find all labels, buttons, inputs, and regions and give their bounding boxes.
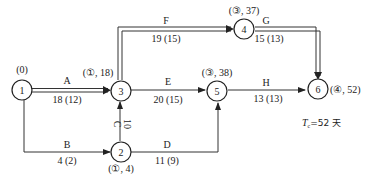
svg-text:Tc=52 天: Tc=52 天: [302, 117, 341, 129]
edge-g: G 15 (13): [254, 15, 322, 80]
node-5-label: 5: [215, 86, 220, 97]
node-3: 3 (①, 18): [83, 67, 131, 101]
total-duration: Tc=52 天: [302, 117, 341, 129]
edge-f-duration: 19 (15): [151, 33, 180, 45]
node-3-annotation: (①, 18): [83, 67, 114, 79]
edge-c: C 10: [112, 102, 133, 141]
edge-h-name: H: [262, 77, 269, 88]
edge-b: B 4 (2): [24, 100, 110, 167]
node-1: 1 (0): [12, 64, 32, 100]
edge-c-name: C: [112, 121, 123, 128]
edge-e-duration: 20 (15): [153, 94, 182, 106]
edge-e: E 20 (15): [131, 76, 205, 106]
edge-d-name: D: [163, 139, 170, 150]
node-2: 2 (①, 4): [108, 142, 134, 175]
node-5: 5 (③, 38): [202, 67, 233, 101]
edge-g-name: G: [262, 15, 269, 26]
edge-d: D 11 (9): [131, 103, 218, 167]
node-6: 6 (④, 52): [308, 79, 361, 99]
edge-a-name: A: [63, 75, 71, 86]
edge-d-duration: 11 (9): [155, 155, 179, 167]
edge-b-name: B: [64, 139, 71, 150]
edge-h: H 13 (13): [228, 77, 305, 105]
edge-a: A 18 (12): [32, 75, 111, 106]
total-duration-value: =52 天: [310, 118, 341, 128]
node-4-label: 4: [242, 24, 247, 35]
node-6-annotation: (④, 52): [330, 84, 361, 96]
node-6-label: 6: [316, 84, 321, 95]
edge-c-duration: 10: [122, 119, 133, 129]
node-4-annotation: (③, 37): [229, 5, 260, 17]
node-5-annotation: (③, 38): [202, 67, 233, 79]
node-2-annotation: (①, 4): [108, 163, 134, 175]
edge-e-name: E: [165, 76, 171, 87]
edge-b-duration: 4 (2): [57, 155, 76, 167]
edge-g-duration: 15 (13): [254, 33, 283, 45]
network-diagram: A 18 (12) B 4 (2) C 10 D 11 (9) E 20 (15…: [0, 0, 367, 182]
node-1-label: 1: [20, 85, 25, 96]
node-3-label: 3: [119, 86, 124, 97]
node-1-annotation: (0): [16, 64, 28, 76]
edge-h-duration: 13 (13): [253, 93, 282, 105]
node-2-label: 2: [119, 147, 124, 158]
edge-f-name: F: [163, 15, 169, 26]
edge-a-duration: 18 (12): [52, 94, 81, 106]
